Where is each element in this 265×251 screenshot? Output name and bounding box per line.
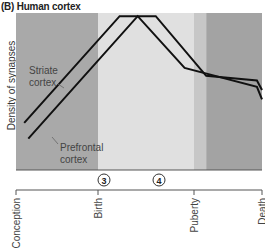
region-childhood (98, 13, 194, 170)
marker-label-4: 4 (156, 176, 161, 186)
annotation-striate-cortex: cortex (29, 77, 56, 88)
region-puberty-transition (194, 13, 206, 170)
x-tick-label-conception: Conception (11, 198, 22, 249)
x-tick-label-puberty: Puberty (189, 198, 200, 232)
region-adult (206, 13, 262, 170)
marker-label-3: 3 (101, 176, 106, 186)
x-tick-label-birth: Birth (93, 198, 104, 219)
x-tick-label-death: Death (257, 198, 265, 225)
annotation-striate-cortex: Striate (29, 65, 58, 76)
chart: StriatecortexPrefrontalcortex 34Concepti… (0, 0, 265, 251)
annotation-prefrontal-cortex: Prefrontal (60, 142, 103, 153)
annotation-prefrontal-cortex: cortex (60, 154, 87, 165)
